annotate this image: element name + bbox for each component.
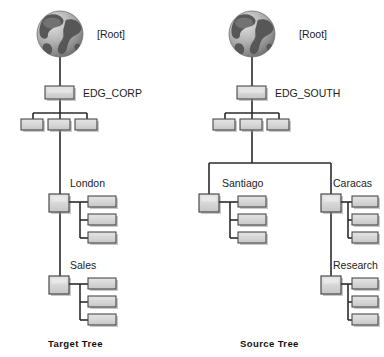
leaf-box[interactable] [88, 196, 118, 209]
leaf-box[interactable] [88, 314, 118, 327]
node-edg-corp[interactable] [45, 86, 76, 101]
leaf-box[interactable] [352, 214, 380, 227]
node-santiago[interactable] [199, 194, 221, 214]
leaf-box[interactable] [88, 278, 118, 291]
edg-corp-children [21, 119, 99, 132]
target-root-label: [Root] [97, 28, 125, 40]
child-box[interactable] [267, 119, 291, 132]
node-label-caracas: Caracas [333, 177, 372, 189]
child-box[interactable] [75, 119, 99, 132]
globe-icon [37, 11, 83, 57]
node-label-research: Research [333, 259, 378, 271]
node-research[interactable] [321, 276, 343, 296]
globe-icon [229, 11, 275, 57]
leaf-box[interactable] [88, 214, 118, 227]
edg-south-children [213, 119, 291, 132]
leaf-box[interactable] [352, 296, 380, 309]
child-box[interactable] [48, 119, 72, 132]
node-label-edg-corp: EDG_CORP [83, 87, 142, 99]
source-tree: [Root] EDG_SOUTH [199, 11, 380, 349]
leaf-box[interactable] [352, 314, 380, 327]
caracas-leaves [352, 196, 380, 245]
leaf-box[interactable] [238, 214, 268, 227]
leaf-box[interactable] [352, 278, 380, 291]
node-caracas[interactable] [321, 194, 343, 214]
leaf-box[interactable] [352, 232, 380, 245]
node-label-edg-south: EDG_SOUTH [275, 87, 340, 99]
research-leaves [352, 278, 380, 327]
sales-connectors [69, 284, 88, 320]
node-label-santiago: Santiago [222, 177, 264, 189]
london-leaves [88, 196, 118, 245]
leaf-box[interactable] [88, 296, 118, 309]
leaf-box[interactable] [238, 196, 268, 209]
child-box[interactable] [213, 119, 237, 132]
node-label-london: London [70, 177, 105, 189]
sales-leaves [88, 278, 118, 327]
source-tree-caption: Source Tree [240, 338, 299, 349]
node-edg-south[interactable] [237, 86, 268, 101]
leaf-box[interactable] [352, 196, 380, 209]
santiago-connectors [219, 202, 238, 238]
target-tree-caption: Target Tree [48, 338, 103, 349]
child-box[interactable] [240, 119, 264, 132]
source-root-label: [Root] [299, 28, 327, 40]
diagram-canvas: [Root] EDG_CORP [0, 0, 384, 357]
leaf-box[interactable] [88, 232, 118, 245]
node-sales[interactable] [49, 276, 71, 296]
node-london[interactable] [49, 194, 71, 214]
node-label-sales: Sales [70, 259, 96, 271]
santiago-leaves [238, 196, 268, 245]
child-box[interactable] [21, 119, 45, 132]
directory-tree-diagram: [Root] EDG_CORP [0, 0, 384, 357]
leaf-box[interactable] [238, 232, 268, 245]
london-connectors [69, 202, 88, 238]
target-tree: [Root] EDG_CORP [21, 11, 142, 349]
